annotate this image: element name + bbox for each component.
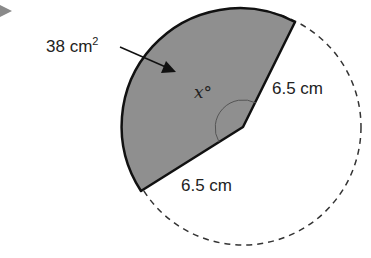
- area-label: 38 cm2: [46, 35, 98, 56]
- pointer-marker-icon: [0, 5, 12, 17]
- diagram-canvas: 38 cm2 x° 6.5 cm 6.5 cm: [0, 0, 371, 258]
- radius-label-bottom: 6.5 cm: [181, 176, 232, 195]
- angle-label: x°: [194, 82, 212, 102]
- radius-label-right: 6.5 cm: [272, 79, 323, 98]
